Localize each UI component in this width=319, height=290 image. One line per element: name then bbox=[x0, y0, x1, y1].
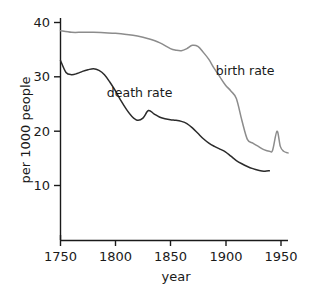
x-tick-label-1950: 1950 bbox=[264, 249, 297, 264]
x-tick-label-1850: 1850 bbox=[154, 249, 187, 264]
birth-rate-label: birth rate bbox=[216, 63, 275, 78]
y-tick-label-10: 10 bbox=[33, 178, 50, 193]
x-axis-title: year bbox=[161, 269, 191, 284]
x-tick-label-1750: 1750 bbox=[44, 249, 77, 264]
y-tick-label-30: 30 bbox=[33, 69, 50, 84]
y-tick-label-40: 40 bbox=[33, 15, 50, 30]
chart-background bbox=[0, 0, 319, 290]
y-tick-label-20: 20 bbox=[33, 124, 50, 139]
x-tick-label-1800: 1800 bbox=[99, 249, 132, 264]
chart-svg: 40 30 20 10 1750 1800 1850 1900 1950 per… bbox=[0, 0, 319, 290]
x-tick-label-1900: 1900 bbox=[209, 249, 242, 264]
demographic-transition-chart: 40 30 20 10 1750 1800 1850 1900 1950 per… bbox=[0, 0, 319, 290]
y-axis-title: per 1000 people bbox=[18, 76, 33, 183]
death-rate-label: death rate bbox=[107, 85, 173, 100]
